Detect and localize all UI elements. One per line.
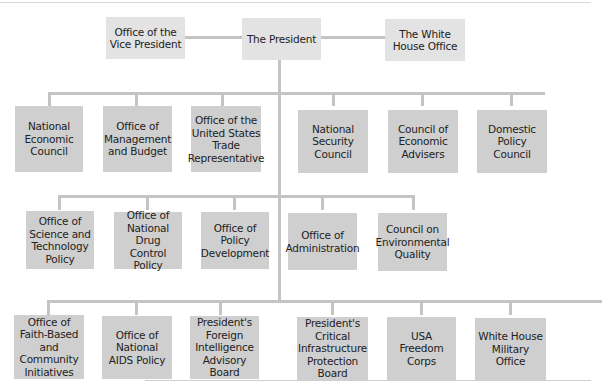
node-label: USA Freedom Corps [390,330,453,368]
node-label: Office of National Drug Control Policy [117,209,179,272]
node-row3: President's Critical Infrastructure Prot… [297,317,368,380]
node-label: Office of Faith-Based and Community Init… [17,316,81,379]
connector-row3-bar [47,300,602,303]
connector-row2-drop [321,195,324,210]
node-label: President's Critical Infrastructure Prot… [298,317,367,380]
connector-row2-drop [412,195,415,210]
node-row1: National Economic Council [15,106,83,172]
connector-row1-drop [221,92,224,106]
node-label: Office of Management and Budget [104,120,171,158]
node-row1: National Security Council [298,110,368,173]
top-rule [0,2,591,3]
connector-row2-drop [146,195,149,210]
connector-row3-drop [331,300,334,315]
connector-row2-drop [58,195,61,210]
node-label: Council of Economic Advisers [391,123,455,161]
node-label: Office of the United States Trade Repres… [188,114,265,164]
connector-row3-drop [420,300,423,315]
node-row2: Office of National Drug Control Policy [114,212,182,269]
node-label: Domestic Policy Council [480,123,544,161]
node-label: Office of National AIDS Policy [105,329,169,367]
connector-row3-drop [135,300,138,315]
node-label: President's Foreign Intelligence Advisor… [193,316,256,379]
connector-row1-drop [421,92,424,106]
node-row2: Office of Policy Development [201,212,269,269]
node-label: National Economic Council [18,120,80,158]
connector-row1-bar [48,92,545,95]
node-row1: Office of the United States Trade Repres… [191,106,261,172]
node-label: The President [247,33,316,46]
connector-row2-drop [233,195,236,210]
connector-row1-drop [510,92,513,106]
node-row3: Office of National AIDS Policy [102,316,172,379]
node-row2: Office of Administration [288,213,357,270]
connector-row3-drop [509,300,512,315]
bottom-rule [145,380,591,381]
connector-row1-drop [332,92,335,106]
node-row3: USA Freedom Corps [387,317,456,380]
node-label: Council on Environmental Quality [376,223,450,261]
node-label: National Security Council [301,123,365,161]
node-label: Office of Policy Development [201,222,269,260]
node-vice-president: Office of the Vice President [106,17,185,59]
node-row1: Council of Economic Advisers [388,110,458,173]
connector-row2-bar [58,195,415,198]
connector-row3-drop [219,300,222,315]
node-label: White House Military Office [478,330,543,368]
node-row1: Domestic Policy Council [477,110,547,173]
node-row2: Office of Science and Technology Policy [26,211,94,269]
node-white-house-office: The White House Office [385,19,465,61]
node-label: The White House Office [388,28,462,53]
connector-vp-president [184,36,242,39]
connector-row1-drop [48,92,51,106]
node-row3: White House Military Office [475,318,546,380]
connector-president-whitehouse [320,36,386,39]
node-president: The President [242,18,321,60]
connector-row3-drop [47,300,50,315]
node-row3: Office of Faith-Based and Community Init… [14,315,84,379]
node-row3: President's Foreign Intelligence Advisor… [190,316,259,379]
node-row1: Office of Management and Budget [103,106,172,172]
connector-row1-drop [135,92,138,106]
node-label: Office of Science and Technology Policy [29,215,91,265]
node-label: Office of Administration [285,229,359,254]
node-row2: Council on Environmental Quality [378,213,447,271]
node-label: Office of the Vice President [109,26,182,51]
